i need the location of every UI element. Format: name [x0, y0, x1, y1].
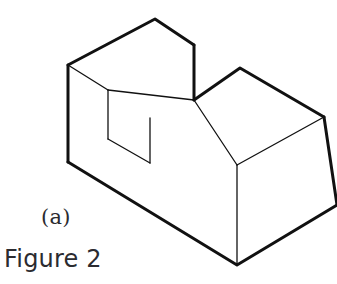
isometric-block-drawing — [0, 0, 337, 284]
figure-2a-container: (a) Figure 2 — [0, 0, 337, 284]
figure-caption: Figure 2 — [4, 245, 102, 273]
subfigure-label: (a) — [41, 205, 71, 229]
